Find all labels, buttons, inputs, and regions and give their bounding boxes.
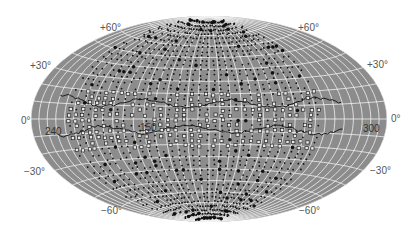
lat-label-right-plus60: +60°: [298, 23, 319, 33]
lat-label-left-minus60: −60°: [101, 206, 122, 216]
lat-label-right-zero: 0°: [391, 114, 401, 124]
lat-label-right-plus30: +30°: [367, 60, 388, 70]
lon-label-150: 150: [140, 123, 157, 133]
lat-label-left-minus30: −30°: [24, 167, 45, 177]
lon-label-240: 240: [45, 127, 62, 137]
lat-label-right-minus30: −30°: [370, 166, 391, 176]
sky-map-canvas: [0, 0, 417, 231]
lat-label-left-zero: 0°: [21, 116, 31, 126]
lat-label-left-plus60: +60°: [100, 23, 121, 33]
lat-label-right-minus60: −60°: [299, 206, 320, 216]
lat-label-left-plus30: +30°: [30, 61, 51, 71]
lon-label-300: 300: [363, 124, 380, 134]
